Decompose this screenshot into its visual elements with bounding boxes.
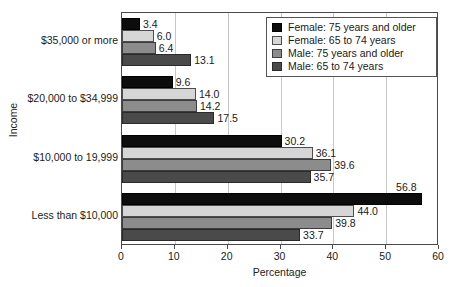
bar-value-label: 14.0 [199, 88, 219, 100]
bar-chart: Income $35,000 or more$20,000 to $34,999… [0, 0, 452, 287]
x-tick-mark [280, 245, 281, 249]
bar-value-label: 30.2 [285, 135, 305, 147]
legend-swatch-icon [272, 36, 282, 45]
bar [122, 159, 331, 171]
x-tick-mark [227, 245, 228, 249]
bar-value-label: 14.2 [200, 100, 220, 112]
x-tick-mark [174, 245, 175, 249]
bar [122, 205, 354, 217]
bar [122, 42, 156, 54]
legend-swatch-icon [272, 62, 282, 71]
x-tick-label: 30 [265, 250, 295, 262]
x-tick-label: 10 [159, 250, 189, 262]
legend-label: Female: 75 years and older [288, 21, 416, 33]
category-label: $10,000 to 19,999 [4, 151, 118, 163]
bar-value-label: 39.6 [334, 159, 354, 171]
bar-value-label: 33.7 [303, 229, 323, 241]
bar-value-label: 6.0 [157, 30, 172, 42]
bar [122, 112, 214, 124]
legend-swatch-icon [272, 23, 282, 32]
bar-value-label: 44.0 [357, 205, 377, 217]
legend-label: Male: 75 years and older [288, 47, 404, 59]
bar-value-label: 6.4 [159, 42, 174, 54]
bar [122, 217, 332, 229]
x-tick-label: 50 [370, 250, 400, 262]
x-tick-label: 0 [106, 250, 136, 262]
bar [122, 30, 154, 42]
x-tick-label: 60 [423, 250, 452, 262]
legend-item: Female: 65 to 74 years [272, 34, 431, 46]
bar [122, 147, 313, 159]
bar-value-label: 39.8 [335, 217, 355, 229]
legend-label: Female: 65 to 74 years [288, 34, 395, 46]
category-label: $20,000 to $34,999 [4, 92, 118, 104]
bar-value-label: 9.6 [176, 76, 191, 88]
x-axis-title: Percentage [121, 266, 438, 278]
legend-item: Male: 65 to 74 years [272, 60, 431, 72]
category-label: Less than $10,000 [4, 209, 118, 221]
bar [122, 18, 140, 30]
bar-value-label: 35.7 [314, 171, 334, 183]
legend-label: Male: 65 to 74 years [288, 60, 383, 72]
legend-item: Female: 75 years and older [272, 21, 431, 33]
category-axis-labels: $35,000 or more$20,000 to $34,999$10,000… [0, 0, 118, 287]
x-tick-label: 20 [212, 250, 242, 262]
bar-value-label: 36.1 [316, 147, 336, 159]
bar [122, 171, 311, 183]
bar [122, 76, 173, 88]
bar [122, 54, 191, 66]
x-tick-label: 40 [317, 250, 347, 262]
bar-value-label: 3.4 [143, 18, 158, 30]
bar [122, 229, 300, 241]
bar-value-label: 56.8 [396, 181, 416, 193]
x-tick-mark [438, 245, 439, 249]
x-tick-mark [121, 245, 122, 249]
category-label: $35,000 or more [4, 34, 118, 46]
bar-value-label: 13.1 [194, 54, 214, 66]
legend-swatch-icon [272, 49, 282, 58]
legend-item: Male: 75 years and older [272, 47, 431, 59]
bar [122, 193, 422, 205]
x-tick-mark [332, 245, 333, 249]
chart-legend: Female: 75 years and olderFemale: 65 to … [266, 17, 437, 77]
bar [122, 88, 196, 100]
bar [122, 135, 282, 147]
bar-value-label: 17.5 [217, 112, 237, 124]
x-tick-mark [385, 245, 386, 249]
bar [122, 100, 197, 112]
